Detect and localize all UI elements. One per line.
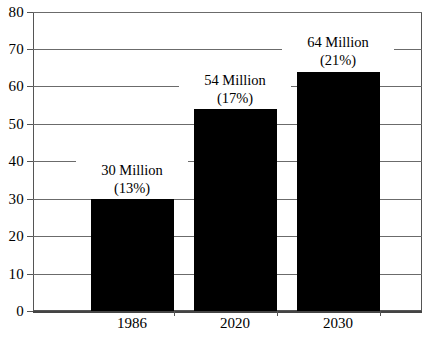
ytick-label-50: 50: [0, 117, 24, 132]
bar-2030: [297, 72, 380, 311]
axis-baseline-0: [33, 311, 422, 313]
gridline-80: [33, 12, 422, 13]
bar-annotation-1986-value: 30 Million: [76, 162, 188, 180]
ytick-mark-60: [27, 86, 33, 87]
ytick-label-10: 10: [0, 267, 24, 282]
ytick-mark-20: [27, 236, 33, 237]
ytick-label-0: 0: [0, 304, 24, 319]
bar-1986: [91, 199, 174, 311]
bar-annotation-1986-percent: (13%): [76, 180, 188, 198]
bar-annotation-2030: 64 Million (21%): [282, 33, 394, 69]
ytick-label-80: 80: [0, 5, 24, 20]
ytick-label-40: 40: [0, 154, 24, 169]
bar-annotation-2020-value: 54 Million: [179, 72, 291, 90]
xtick-label-1986: 1986: [87, 315, 177, 332]
bar-annotation-2030-value: 64 Million: [282, 34, 394, 52]
ytick-mark-70: [27, 49, 33, 50]
bar-2020: [194, 109, 277, 311]
ytick-mark-0: [27, 311, 33, 312]
bar-annotation-2020: 54 Million (17%): [179, 71, 291, 107]
ytick-mark-40: [27, 161, 33, 162]
xtick-label-2030: 2030: [293, 315, 383, 332]
bar-chart: 80 70 60 50 40 30 20 10 0 1986 2020 2030…: [0, 0, 440, 339]
ytick-label-30: 30: [0, 192, 24, 207]
bar-annotation-1986: 30 Million (13%): [76, 161, 188, 197]
ytick-mark-80: [27, 12, 33, 13]
ytick-mark-30: [27, 199, 33, 200]
ytick-label-60: 60: [0, 79, 24, 94]
ytick-mark-10: [27, 274, 33, 275]
ytick-label-70: 70: [0, 42, 24, 57]
xtick-label-2020: 2020: [190, 315, 280, 332]
ytick-label-20: 20: [0, 229, 24, 244]
ytick-mark-50: [27, 124, 33, 125]
bar-annotation-2020-percent: (17%): [179, 90, 291, 108]
bar-annotation-2030-percent: (21%): [282, 52, 394, 70]
